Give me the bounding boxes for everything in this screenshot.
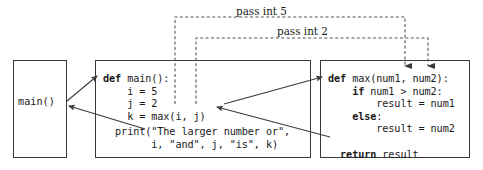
keyword-def: def [328,73,346,84]
main-def-code: def main(): i = 5 j = 2 k = max(i, j) [103,73,206,123]
caller-label: main() [18,96,55,107]
keyword-def: def [103,73,121,84]
pass-int-2-label: pass int 2 [277,25,328,37]
caller-box [13,60,67,158]
main-print-code: print("The larger number or", i, "and", … [103,126,290,151]
keyword-if: if [352,86,364,97]
keyword-return: return [340,149,376,160]
call-arrow-main [67,76,97,101]
pass-int-5-label: pass int 5 [236,5,287,17]
diagram-canvas: main() def main(): i = 5 j = 2 k = max(i… [0,0,483,170]
keyword-else: else [352,111,376,122]
max-def-code: def max(num1, num2): if num1 > num2: res… [328,73,455,161]
